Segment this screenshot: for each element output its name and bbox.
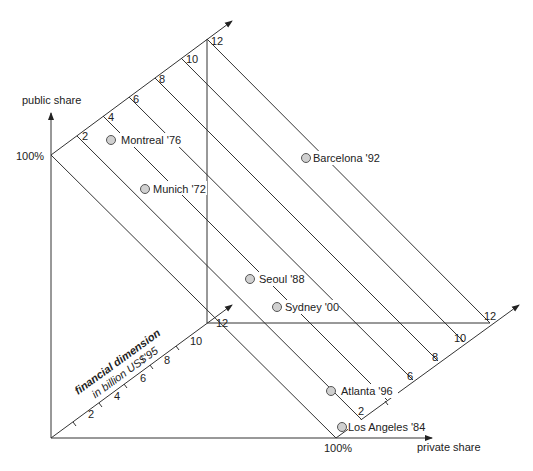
right-tick-10: 10 (454, 332, 466, 344)
fin-tick-12: 12 (216, 317, 228, 329)
right-financial-axis (336, 305, 519, 438)
fin-tick-6: 6 (140, 372, 146, 384)
diagram-canvas: public share 100% private share 100% fin… (0, 0, 533, 471)
top-tick-12: 12 (211, 35, 223, 47)
public-share-label: public share (22, 94, 81, 106)
label-munich: Munich '72 (153, 183, 206, 195)
point-seoul (246, 275, 255, 284)
fin-tick-10: 10 (190, 335, 202, 347)
point-los-angeles (338, 423, 347, 432)
private-100-label: 100% (324, 442, 352, 454)
top-tick-4: 4 (108, 111, 114, 123)
diagonal-10 (181, 58, 464, 342)
label-los-angeles: Los Angeles '84 (348, 421, 425, 433)
point-atlanta (327, 387, 336, 396)
right-tick-6: 6 (407, 370, 413, 382)
right-tick-8: 8 (432, 351, 438, 363)
label-atlanta: Atlanta '96 (341, 385, 393, 397)
point-munich (141, 185, 150, 194)
public-100-label: 100% (16, 150, 44, 162)
olympic-finance-diagram: public share 100% private share 100% fin… (0, 0, 533, 471)
label-montreal: Montreal '76 (121, 134, 181, 146)
label-seoul: Seoul '88 (259, 273, 305, 285)
top-tick-2: 2 (82, 130, 88, 142)
point-montreal (107, 136, 116, 145)
point-sydney (273, 303, 282, 312)
point-barcelona (302, 154, 311, 163)
label-sydney: Sydney '00 (285, 301, 339, 313)
fin-tick-2: 2 (88, 408, 94, 420)
top-tick-8: 8 (159, 73, 165, 85)
fin-tick-4: 4 (114, 390, 120, 402)
diagonal-8 (155, 78, 438, 361)
fin-tick-8: 8 (164, 354, 170, 366)
right-tick-2: 2 (358, 405, 364, 417)
label-barcelona: Barcelona '92 (313, 152, 380, 164)
top-tick-10: 10 (186, 53, 198, 65)
right-tick-12: 12 (484, 310, 496, 322)
private-share-label: private share (417, 441, 481, 453)
top-tick-6: 6 (133, 93, 139, 105)
